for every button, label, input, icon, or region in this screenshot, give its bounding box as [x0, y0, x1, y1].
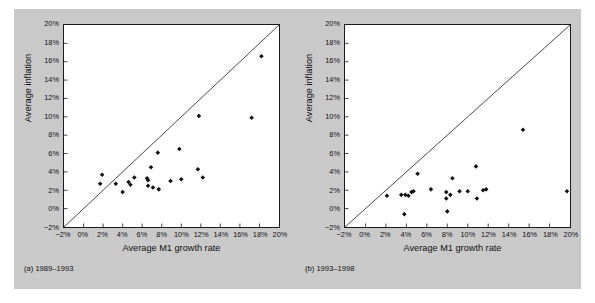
x-axis-tick-labels-a: −2%0%2%4%6%8%10%12%14%16%18%20% — [63, 230, 280, 242]
data-point-marker — [521, 127, 526, 132]
x-axis-title-b: Average M1 growth rate — [335, 243, 570, 253]
data-point-marker — [445, 209, 450, 214]
data-point-marker — [402, 212, 407, 217]
y-axis-tick-label: 6% — [310, 150, 340, 158]
x-axis-tick-label: 8% — [442, 230, 453, 239]
x-axis-tick-label: 12% — [194, 230, 209, 239]
y-axis-tick-label: 2% — [29, 187, 59, 195]
data-point-marker — [114, 182, 119, 187]
data-point-marker — [399, 193, 404, 198]
y-axis-tick-label: 18% — [310, 39, 340, 47]
x-axis-tick-label: 2% — [97, 230, 108, 239]
x-axis-tick-label: 6% — [137, 230, 148, 239]
x-axis-tick-labels-b: −2%0%2%4%6%8%10%12%14%16%18%20% — [344, 230, 571, 242]
x-axis-tick-label: 4% — [401, 230, 412, 239]
data-point-marker — [98, 182, 103, 187]
y-axis-tick-label: 10% — [310, 113, 340, 121]
x-axis-title-a: Average M1 growth rate — [54, 243, 289, 253]
x-axis-tick-label: 0% — [359, 230, 370, 239]
y-axis-tick-label: 12% — [310, 94, 340, 102]
x-axis-tick-label: 6% — [421, 230, 432, 239]
x-axis-tick-label: 0% — [77, 230, 88, 239]
y-axis-tick-label: 0% — [29, 205, 59, 213]
y-axis-title-a: Average inflation — [23, 28, 33, 148]
y-axis-tick-label: 14% — [310, 76, 340, 84]
y-axis-tick-label: 20% — [310, 20, 340, 28]
data-point-marker — [179, 177, 184, 182]
y-axis-tick-label: 0% — [310, 205, 340, 213]
x-axis-tick-label: 12% — [481, 230, 496, 239]
data-point-marker — [465, 189, 470, 194]
x-axis-tick-label: 14% — [502, 230, 517, 239]
data-point-marker — [168, 179, 173, 184]
y-axis-title-b: Average inflation — [304, 28, 314, 148]
y-axis-tick-label: 18% — [29, 39, 59, 47]
x-axis-tick-label: 18% — [543, 230, 558, 239]
figure-panel: −2%0%2%4%6%8%10%12%14%16%18%20% −2%0%2%4… — [14, 9, 581, 289]
y-axis-tick-label: 16% — [310, 57, 340, 65]
x-axis-tick-label: 8% — [156, 230, 167, 239]
data-point-marker — [444, 190, 449, 195]
data-point-marker — [200, 175, 205, 180]
x-axis-tick-label: 20% — [564, 230, 579, 239]
data-point-marker — [475, 196, 480, 201]
y-axis-tick-label: 4% — [29, 168, 59, 176]
data-point-marker — [385, 194, 390, 199]
panel-caption-b: (b) 1993–1998 — [305, 264, 354, 273]
reference-line-45deg — [64, 25, 279, 227]
y-axis-tick-label: 10% — [29, 113, 59, 121]
data-point-marker — [259, 54, 264, 59]
chart-panel-a: −2%0%2%4%6%8%10%12%14%16%18%20% −2%0%2%4… — [14, 9, 297, 289]
x-axis-tick-label: 16% — [522, 230, 537, 239]
data-point-marker — [249, 115, 254, 120]
data-point-marker — [429, 187, 434, 192]
data-point-marker — [450, 176, 455, 181]
y-axis-tick-label: 8% — [310, 131, 340, 139]
chart-panel-b: −2%0%2%4%6%8%10%12%14%16%18%20% −2%0%2%4… — [295, 9, 578, 289]
x-axis-tick-label: 20% — [273, 230, 288, 239]
x-axis-tick-label: 14% — [213, 230, 228, 239]
scatter-svg-a — [64, 25, 279, 227]
x-axis-tick-label: 10% — [174, 230, 189, 239]
y-axis-tick-label: 16% — [29, 57, 59, 65]
y-axis-tick-label: 4% — [310, 168, 340, 176]
x-axis-tick-label: 16% — [233, 230, 248, 239]
data-point-marker — [444, 196, 449, 201]
data-point-marker — [146, 183, 151, 188]
x-axis-tick-label: 18% — [253, 230, 268, 239]
x-axis-tick-label: 10% — [460, 230, 475, 239]
y-axis-tick-label: 8% — [29, 131, 59, 139]
y-axis-tick-label: 6% — [29, 150, 59, 158]
plot-area-a — [63, 24, 280, 228]
reference-line-45deg — [345, 25, 570, 227]
data-point-marker — [177, 147, 182, 152]
data-point-marker — [565, 189, 570, 194]
y-axis-tick-label: 14% — [29, 76, 59, 84]
data-point-marker — [197, 114, 202, 119]
y-axis-tick-label: −2% — [310, 224, 340, 232]
y-axis-tick-label: 12% — [29, 94, 59, 102]
plot-area-b — [344, 24, 571, 228]
data-point-marker — [457, 189, 462, 194]
data-point-marker — [474, 164, 479, 169]
panel-caption-a: (a) 1989–1993 — [24, 264, 73, 273]
x-axis-tick-label: 4% — [117, 230, 128, 239]
data-point-marker — [132, 175, 137, 180]
data-point-marker — [156, 150, 161, 155]
data-point-marker — [151, 185, 156, 190]
data-point-marker — [448, 193, 453, 198]
x-axis-tick-label: −2% — [56, 230, 71, 239]
y-axis-tick-label: 20% — [29, 20, 59, 28]
data-point-marker — [149, 165, 154, 170]
scatter-svg-b — [345, 25, 570, 227]
x-axis-tick-label: −2% — [337, 230, 352, 239]
data-point-marker — [120, 190, 125, 195]
y-axis-tick-label: −2% — [29, 224, 59, 232]
data-point-marker — [100, 172, 105, 177]
y-axis-tick-label: 2% — [310, 187, 340, 195]
data-point-marker — [157, 187, 162, 192]
x-axis-tick-label: 2% — [380, 230, 391, 239]
data-point-marker — [196, 167, 201, 172]
data-point-marker — [415, 171, 420, 176]
